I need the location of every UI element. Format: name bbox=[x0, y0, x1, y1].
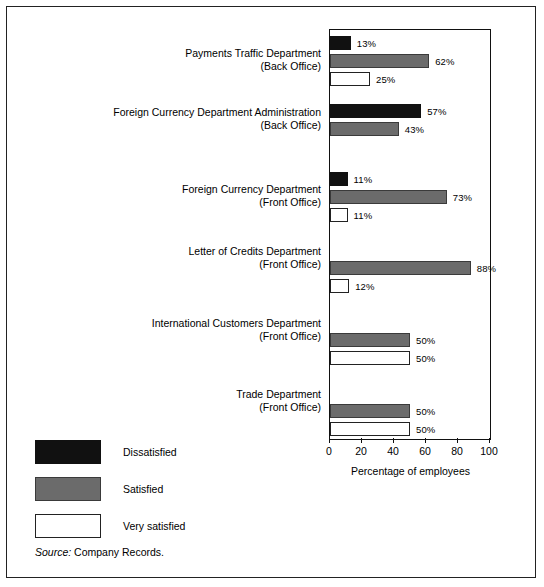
bar-satisfied[interactable] bbox=[330, 54, 429, 68]
bar-row: 62% bbox=[330, 54, 490, 68]
axis-tick-label: 80 bbox=[451, 445, 463, 457]
legend-label: Dissatisfied bbox=[123, 446, 177, 458]
category-label: Foreign Currency Department(Front Office… bbox=[7, 183, 321, 208]
category-label-line2: (Back Office) bbox=[7, 60, 321, 73]
bar-value-label: 43% bbox=[405, 124, 424, 135]
bar-row: 25% bbox=[330, 72, 490, 86]
bar-value-label: 50% bbox=[416, 406, 435, 417]
category-label-line1: Letter of Credits Department bbox=[7, 245, 321, 258]
category-label: International Customers Department(Front… bbox=[7, 317, 321, 342]
bar-dissatisfied[interactable] bbox=[330, 36, 351, 50]
bar-value-label: 73% bbox=[453, 192, 472, 203]
bar-very[interactable] bbox=[330, 351, 410, 365]
bar-row: 11% bbox=[330, 208, 490, 222]
category-label-line1: Foreign Currency Department bbox=[7, 183, 321, 196]
category-label-line2: (Back Office) bbox=[7, 119, 321, 132]
bar-value-label: 11% bbox=[354, 174, 373, 185]
bar-satisfied[interactable] bbox=[330, 333, 410, 347]
category-label-line1: Foreign Currency Department Administrati… bbox=[7, 106, 321, 119]
bar-value-label: 12% bbox=[355, 281, 374, 292]
axis-tick bbox=[361, 438, 362, 443]
category-label-line2: (Front Office) bbox=[7, 401, 321, 414]
bar-row: 13% bbox=[330, 36, 490, 50]
bar-value-label: 13% bbox=[357, 38, 376, 49]
bar-value-label: 88% bbox=[477, 263, 496, 274]
bar-dissatisfied[interactable] bbox=[330, 172, 348, 186]
source-text: Company Records. bbox=[74, 546, 164, 558]
legend-swatch-satisfied bbox=[35, 477, 101, 501]
category-label-line1: Trade Department bbox=[7, 388, 321, 401]
category-label: Payments Traffic Department(Back Office) bbox=[7, 47, 321, 72]
category-label-line2: (Front Office) bbox=[7, 258, 321, 271]
bar-very[interactable] bbox=[330, 208, 348, 222]
category-label-line2: (Front Office) bbox=[7, 330, 321, 343]
bar-value-label: 11% bbox=[354, 210, 373, 221]
legend-swatch-very bbox=[35, 514, 101, 538]
bar-very[interactable] bbox=[330, 279, 349, 293]
bar-row: 57% bbox=[330, 104, 490, 118]
axis-tick-label: 100 bbox=[480, 445, 498, 457]
figure-frame: Payments Traffic Department(Back Office)… bbox=[6, 6, 536, 578]
axis-tick bbox=[457, 438, 458, 443]
axis-tick bbox=[489, 438, 490, 443]
bar-satisfied[interactable] bbox=[330, 261, 471, 275]
bar-value-label: 50% bbox=[416, 353, 435, 364]
bar-satisfied[interactable] bbox=[330, 190, 447, 204]
category-label-line2: (Front Office) bbox=[7, 196, 321, 209]
bar-satisfied[interactable] bbox=[330, 122, 399, 136]
category-label-line1: International Customers Department bbox=[7, 317, 321, 330]
legend-label: Satisfied bbox=[123, 483, 163, 495]
bar-value-label: 50% bbox=[416, 424, 435, 435]
bar-row: 11% bbox=[330, 172, 490, 186]
bar-row: 73% bbox=[330, 190, 490, 204]
plot-area: 13%62%25%57%43%11%73%11%88%12%50%50%50%5… bbox=[329, 29, 491, 440]
bar-row: 50% bbox=[330, 351, 490, 365]
bar-row: 50% bbox=[330, 333, 490, 347]
bar-row: 50% bbox=[330, 404, 490, 418]
source-prefix: Source: bbox=[35, 546, 71, 558]
legend-swatch-dissatisfied bbox=[35, 440, 101, 464]
bar-value-label: 50% bbox=[416, 335, 435, 346]
axis-tick-label: 0 bbox=[326, 445, 332, 457]
category-label-line1: Payments Traffic Department bbox=[7, 47, 321, 60]
axis-tick bbox=[329, 438, 330, 443]
bar-very[interactable] bbox=[330, 72, 370, 86]
bar-row: 12% bbox=[330, 279, 490, 293]
bar-value-label: 57% bbox=[427, 106, 446, 117]
bar-value-label: 25% bbox=[376, 74, 395, 85]
axis-tick-label: 40 bbox=[387, 445, 399, 457]
bar-row: 50% bbox=[330, 422, 490, 436]
bar-row: 43% bbox=[330, 122, 490, 136]
bar-row: 88% bbox=[330, 261, 490, 275]
axis-tick bbox=[393, 438, 394, 443]
axis-tick-label: 20 bbox=[355, 445, 367, 457]
axis-tick bbox=[425, 438, 426, 443]
bar-dissatisfied[interactable] bbox=[330, 104, 421, 118]
source-note: Source: Company Records. bbox=[35, 546, 164, 558]
category-label: Foreign Currency Department Administrati… bbox=[7, 106, 321, 131]
bar-value-label: 62% bbox=[435, 56, 454, 67]
axis-tick-label: 60 bbox=[419, 445, 431, 457]
x-axis-title: Percentage of employees bbox=[329, 465, 492, 477]
legend-label: Very satisfied bbox=[123, 520, 185, 532]
bar-satisfied[interactable] bbox=[330, 404, 410, 418]
category-label: Trade Department(Front Office) bbox=[7, 388, 321, 413]
bar-very[interactable] bbox=[330, 422, 410, 436]
category-label: Letter of Credits Department(Front Offic… bbox=[7, 245, 321, 270]
